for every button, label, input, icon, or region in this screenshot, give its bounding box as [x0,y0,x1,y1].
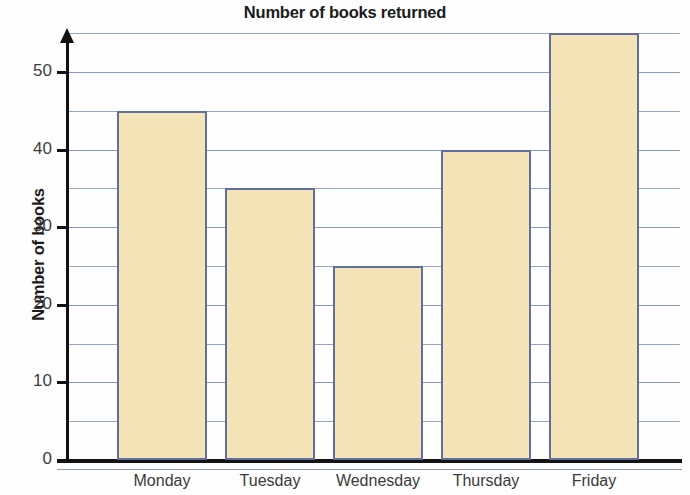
bar-thursday [441,150,531,460]
y-tick-label-0: 0 [6,449,52,469]
y-tick-30 [57,226,69,229]
y-tick-label-30: 30 [6,216,52,236]
bar-tuesday [225,188,315,460]
y-tick-label-40: 40 [6,139,52,159]
y-tick-label-20: 20 [6,294,52,314]
x-axis-label-friday: Friday [535,472,653,490]
y-tick-20 [57,304,69,307]
y-tick-0 [57,459,69,462]
bar-friday [549,33,639,460]
x-axis-label-monday: Monday [103,472,221,490]
x-axis-label-tuesday: Tuesday [211,472,329,490]
y-tick-50 [57,71,69,74]
y-tick-label-10: 10 [6,371,52,391]
x-axis-label-wednesday: Wednesday [319,472,437,490]
y-tick-label-50: 50 [6,61,52,81]
chart-title: Number of books returned [0,3,690,22]
bar-wednesday [333,266,423,460]
bar-chart: Number of books returned Number of books… [0,0,690,495]
bar-monday [117,111,207,460]
y-tick-10 [57,381,69,384]
x-axis-label-thursday: Thursday [427,472,545,490]
y-axis-title: Number of books [29,155,48,355]
y-tick-40 [57,149,69,152]
y-axis-arrow-icon [60,28,74,43]
y-axis-spine [66,40,69,462]
x-axis-underline [57,469,682,470]
